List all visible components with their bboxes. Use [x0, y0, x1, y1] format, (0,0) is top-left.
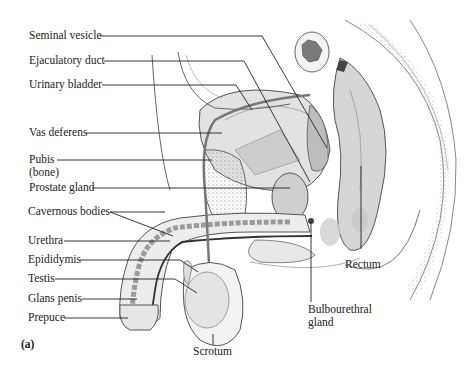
seminal-vesicle-structure — [307, 105, 328, 171]
scrotum-structure — [183, 261, 243, 346]
label-cavernous-bodies: Cavernous bodies — [28, 205, 110, 218]
label-vas-deferens: Vas deferens — [29, 126, 87, 139]
intestine — [295, 32, 329, 72]
label-testis: Testis — [28, 272, 55, 285]
label-prepuce: Prepuce — [28, 311, 65, 324]
label-bulbourethral-2: gland — [308, 316, 334, 329]
label-urinary-bladder: Urinary bladder — [29, 78, 102, 91]
figure-label: (a) — [21, 338, 34, 351]
label-urethra: Urethra — [28, 234, 63, 247]
label-rectum: Rectum — [345, 258, 381, 271]
label-epididymis: Epididymis — [28, 253, 81, 266]
label-scrotum: Scrotum — [193, 345, 232, 358]
label-glans-penis: Glans penis — [28, 292, 82, 305]
label-pubis-sub: (bone) — [29, 166, 59, 179]
label-seminal-vesicle: Seminal vesicle — [29, 29, 102, 42]
label-pubis: Pubis — [29, 153, 55, 166]
label-prostate-gland: Prostate gland — [29, 181, 94, 194]
label-bulbourethral-1: Bulbourethral — [308, 303, 372, 316]
anatomy-diagram: Seminal vesicle Ejaculatory duct Urinary… — [0, 0, 476, 373]
label-ejaculatory-duct: Ejaculatory duct — [29, 54, 105, 67]
rectum-structure — [333, 58, 420, 269]
